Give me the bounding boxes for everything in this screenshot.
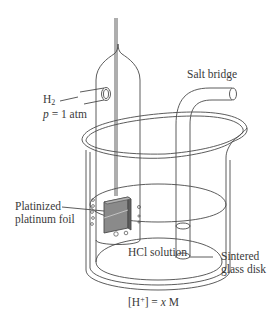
hcl-solution-label: HCl solution (128, 246, 187, 259)
sintered-line-2: glass disk (221, 263, 266, 276)
h2-inlet (60, 88, 111, 105)
h2-subscript: 2 (51, 98, 55, 107)
salt-bridge (176, 88, 237, 259)
platinized-foil-label: Platinized platinum foil (15, 200, 75, 226)
salt-bridge-label: Salt bridge (187, 68, 237, 81)
concentration-close: ] = (145, 296, 161, 308)
sintered-glass-label: Sintered glass disk (221, 250, 266, 276)
sintered-line-1: Sintered (221, 250, 266, 263)
platinized-line-1: Platinized (15, 200, 75, 213)
concentration-label: [H+] = x M (128, 293, 179, 309)
concentration-open: [H (128, 296, 140, 308)
concentration-unit: M (166, 296, 179, 308)
pressure-label: p = 1 atm (43, 108, 87, 121)
pressure-value: = 1 atm (49, 108, 87, 120)
platinized-line-2: platinum foil (15, 213, 75, 226)
h2-label: H2 (43, 93, 55, 109)
